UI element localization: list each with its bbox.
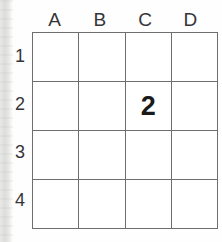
row-header-4: 4 — [8, 176, 28, 224]
cell-a4[interactable] — [33, 180, 79, 229]
cell-c2[interactable]: 2 — [125, 82, 171, 131]
column-header-row: A B C D — [32, 8, 213, 31]
cell-value: 2 — [126, 82, 171, 130]
cell-d3[interactable] — [171, 131, 217, 180]
column-header-b: B — [77, 8, 122, 31]
cell-c3[interactable] — [125, 131, 171, 180]
cell-c4[interactable] — [125, 180, 171, 229]
row-header-3: 3 — [8, 128, 28, 176]
table-row — [33, 33, 218, 82]
worksheet-page: A B C D 1 2 3 4 2 — [0, 0, 222, 242]
cell-b2[interactable] — [79, 82, 125, 131]
cell-a2[interactable] — [33, 82, 79, 131]
column-header-a: A — [32, 8, 77, 31]
cell-d2[interactable] — [171, 82, 217, 131]
column-header-c: C — [123, 8, 168, 31]
table-row — [33, 131, 218, 180]
row-header-1: 1 — [8, 32, 28, 80]
cell-b3[interactable] — [79, 131, 125, 180]
cell-b4[interactable] — [79, 180, 125, 229]
cell-c1[interactable] — [125, 33, 171, 82]
table-row — [33, 180, 218, 229]
cell-d1[interactable] — [171, 33, 217, 82]
grid-table: 2 — [32, 32, 218, 229]
cell-a3[interactable] — [33, 131, 79, 180]
cell-a1[interactable] — [33, 33, 79, 82]
cell-d4[interactable] — [171, 180, 217, 229]
grid-container: 2 — [32, 32, 213, 224]
column-header-d: D — [168, 8, 213, 31]
cell-b1[interactable] — [79, 33, 125, 82]
row-header-column: 1 2 3 4 — [8, 32, 28, 224]
row-header-2: 2 — [8, 80, 28, 128]
table-row: 2 — [33, 82, 218, 131]
